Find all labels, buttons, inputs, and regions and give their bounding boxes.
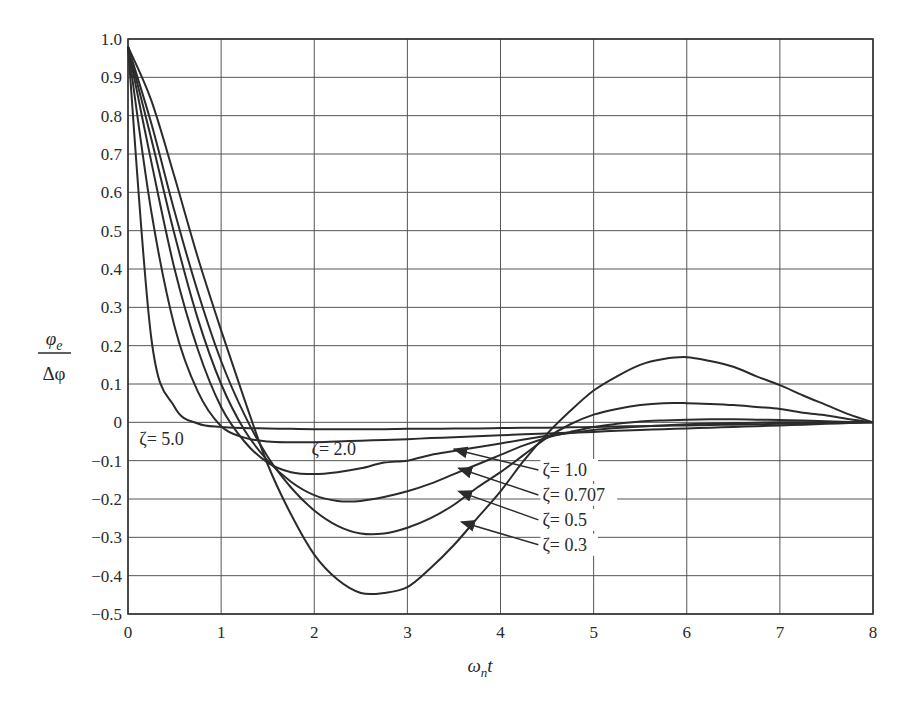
x-tick-label: 8	[869, 623, 878, 642]
annotation-arrow	[461, 522, 538, 545]
x-tick-label: 1	[217, 623, 226, 642]
y-tick-label: −0.3	[91, 528, 122, 547]
svg-text:Δφ: Δφ	[42, 363, 65, 384]
y-tick-label: 0.2	[101, 337, 122, 356]
x-tick-label: 7	[776, 623, 785, 642]
y-tick-label: 0.9	[101, 68, 122, 87]
y-tick-label: 0.6	[101, 183, 122, 202]
y-tick-label: 0.7	[101, 145, 123, 164]
zeta-label: ζ= 1.0	[542, 460, 587, 480]
svg-text:φe: φe	[46, 328, 63, 353]
y-tick-label: 0.8	[101, 107, 122, 126]
zeta-label: ζ= 0.707	[542, 485, 605, 505]
y-tick-label: 0.3	[101, 298, 122, 317]
line-chart: 012345678 1.00.90.80.70.60.50.40.30.20.1…	[0, 0, 909, 706]
x-axis-label: ωnt	[467, 655, 493, 680]
y-tick-label: −0.2	[91, 490, 122, 509]
curve-annotations: ζ= 5.0ζ= 2.0ζ= 1.0ζ= 0.707ζ= 0.5ζ= 0.3	[139, 429, 617, 555]
zeta-label: ζ= 0.5	[542, 510, 587, 530]
x-tick-label: 5	[589, 623, 598, 642]
y-axis-ticks: 1.00.90.80.70.60.50.40.30.20.10−0.1−0.2−…	[91, 30, 122, 624]
y-tick-label: 0	[114, 413, 123, 432]
y-tick-label: 1.0	[101, 30, 122, 49]
x-axis-ticks: 012345678	[124, 623, 878, 642]
annotation-arrow	[459, 468, 539, 495]
y-tick-label: −0.4	[91, 567, 122, 586]
x-tick-label: 2	[310, 623, 319, 642]
annotation-arrow	[459, 491, 539, 519]
y-tick-label: 0.1	[101, 375, 122, 394]
y-tick-label: 0.5	[101, 222, 122, 241]
y-axis-label: φe Δφ	[38, 328, 71, 384]
zeta-label: ζ= 2.0	[311, 439, 356, 459]
grid-lines	[128, 39, 873, 614]
y-tick-label: −0.5	[91, 605, 122, 624]
zeta-label: ζ= 0.3	[542, 535, 587, 555]
x-tick-label: 4	[496, 623, 505, 642]
zeta-label: ζ= 5.0	[139, 429, 184, 449]
x-tick-label: 0	[124, 623, 133, 642]
y-tick-label: −0.1	[91, 452, 122, 471]
y-tick-label: 0.4	[101, 260, 123, 279]
x-tick-label: 3	[403, 623, 412, 642]
x-tick-label: 6	[683, 623, 692, 642]
